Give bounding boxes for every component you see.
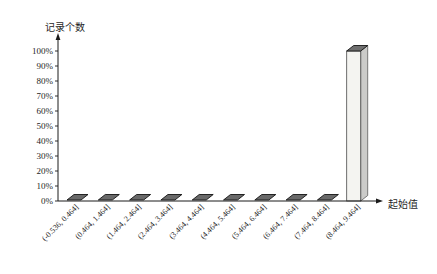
x-axis-arrow-icon <box>376 199 383 204</box>
x-axis-title: 起始值 <box>388 196 418 211</box>
bar-zero <box>317 195 338 201</box>
y-tick-label: 50% <box>37 121 54 131</box>
y-tick-label: 80% <box>37 76 54 86</box>
y-tick-label: 60% <box>37 106 54 116</box>
y-axis-arrow-icon <box>56 33 61 40</box>
y-tick-label: 20% <box>37 166 54 176</box>
bar-zero <box>67 195 88 201</box>
bar-front-face <box>347 51 361 201</box>
y-axis-title: 记录个数 <box>45 19 85 34</box>
bar-zero <box>286 195 307 201</box>
bar-zero <box>255 195 276 201</box>
y-tick-label: 100% <box>32 46 54 56</box>
y-tick-label: 0% <box>41 196 54 206</box>
bar-chart-svg: 0%10%20%30%40%50%60%70%80%90%100%(-0.536… <box>0 0 437 274</box>
y-tick-label: 70% <box>37 91 54 101</box>
bar-side-face <box>361 46 368 202</box>
bar-zero <box>224 195 245 201</box>
y-tick-label: 10% <box>37 181 54 191</box>
y-tick-label: 90% <box>37 61 54 71</box>
bar-zero <box>192 195 213 201</box>
bar-zero <box>130 195 151 201</box>
y-tick-label: 30% <box>37 151 54 161</box>
y-tick-label: 40% <box>37 136 54 146</box>
bar-zero <box>98 195 119 201</box>
bar-zero <box>161 195 182 201</box>
chart-canvas: 0%10%20%30%40%50%60%70%80%90%100%(-0.536… <box>0 0 437 274</box>
